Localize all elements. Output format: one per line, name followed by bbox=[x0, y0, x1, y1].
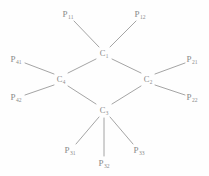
substituent-label-p31: P31 bbox=[65, 146, 76, 155]
ring-bond-group bbox=[68, 59, 141, 104]
atom-label-c4: C4 bbox=[57, 75, 66, 84]
element-symbol: C bbox=[100, 48, 106, 58]
atom-label-c1: C1 bbox=[100, 49, 109, 58]
bond-c1-p12 bbox=[110, 21, 136, 47]
element-subscript: 32 bbox=[104, 163, 110, 169]
element-subscript: 21 bbox=[192, 59, 198, 65]
element-subscript: 1 bbox=[106, 53, 109, 59]
element-symbol: C bbox=[100, 105, 106, 115]
element-subscript: 12 bbox=[140, 14, 146, 20]
element-subscript: 2 bbox=[150, 79, 153, 85]
element-subscript: 11 bbox=[68, 14, 74, 20]
bond-c4-c1 bbox=[68, 59, 96, 73]
bond-c1-c2 bbox=[112, 59, 141, 73]
element-subscript: 22 bbox=[192, 97, 198, 103]
element-subscript: 41 bbox=[16, 59, 22, 65]
bond-c2-p21 bbox=[155, 63, 185, 74]
element-symbol: C bbox=[144, 74, 150, 84]
atom-label-c3: C3 bbox=[100, 106, 109, 115]
substituent-label-p33: P33 bbox=[134, 146, 145, 155]
substituent-label-p21: P21 bbox=[187, 55, 198, 64]
bond-layer bbox=[0, 0, 209, 176]
bond-c1-p11 bbox=[74, 21, 99, 47]
substituent-label-p42: P42 bbox=[11, 93, 22, 102]
substituent-label-p41: P41 bbox=[11, 55, 22, 64]
bond-c3-c4 bbox=[68, 86, 96, 104]
element-symbol: C bbox=[57, 74, 63, 84]
substituent-label-p11: P11 bbox=[63, 10, 74, 19]
element-subscript: 3 bbox=[106, 110, 109, 116]
bond-c4-p41 bbox=[25, 63, 54, 74]
element-subscript: 33 bbox=[139, 150, 145, 156]
bond-c4-p42 bbox=[25, 85, 54, 95]
element-subscript: 42 bbox=[16, 97, 22, 103]
substituent-label-p12: P12 bbox=[135, 10, 146, 19]
molecule-diagram: C1C2C3C4P11P12P21P22P31P32P33P41P42 bbox=[0, 0, 209, 176]
substituent-label-p32: P32 bbox=[99, 159, 110, 168]
atom-label-c2: C2 bbox=[144, 75, 153, 84]
bond-c3-p31 bbox=[76, 117, 99, 144]
substituent-label-p22: P22 bbox=[187, 93, 198, 102]
element-subscript: 4 bbox=[63, 79, 66, 85]
bond-c2-p22 bbox=[155, 85, 185, 95]
bond-c2-c3 bbox=[112, 86, 141, 104]
bond-c3-p33 bbox=[110, 117, 133, 144]
substituent-bond-group bbox=[25, 21, 185, 156]
element-subscript: 31 bbox=[70, 150, 76, 156]
